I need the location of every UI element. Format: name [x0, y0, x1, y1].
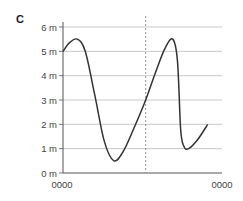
- gridlines: [63, 27, 222, 149]
- line-chart: 0 m1 m2 m3 m4 m5 m6 m 00000000: [0, 0, 243, 201]
- y-tick-label: 0 m: [41, 168, 57, 179]
- y-tick-label: 4 m: [41, 70, 57, 81]
- x-tick-label: 0000: [51, 179, 72, 190]
- x-tick-label: 0000: [211, 179, 232, 190]
- y-tick-label: 6 m: [41, 22, 57, 33]
- y-tick-label: 2 m: [41, 119, 57, 130]
- y-tick-label: 3 m: [41, 95, 57, 106]
- y-axis-ticks: 0 m1 m2 m3 m4 m5 m6 m: [41, 22, 63, 179]
- y-tick-label: 5 m: [41, 46, 57, 57]
- x-axis-labels: 00000000: [51, 179, 232, 190]
- y-tick-label: 1 m: [41, 143, 57, 154]
